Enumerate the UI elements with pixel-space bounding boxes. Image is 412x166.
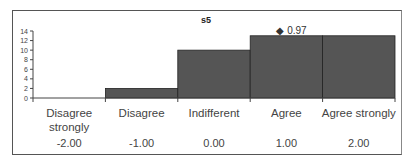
bar (250, 36, 322, 98)
scale-value-label: -1.00 (112, 137, 172, 149)
scale-value-label: 2.00 (329, 137, 389, 149)
scale-value-label: 1.00 (256, 137, 316, 149)
y-tick-label: 4 (24, 75, 28, 82)
category-label: Agree strongly (319, 106, 399, 120)
y-tick-label: 12 (20, 37, 28, 44)
y-tick-label: 14 (20, 28, 28, 35)
bar (105, 88, 177, 98)
y-tick-label: 2 (24, 85, 28, 92)
scale-value-label: -2.00 (39, 137, 99, 149)
y-tick-label: 6 (24, 66, 28, 73)
y-tick-label: 8 (24, 56, 28, 63)
bar (323, 36, 395, 98)
category-label: Disagree (102, 106, 182, 120)
category-label: Disagreestrongly (29, 106, 109, 134)
bar (178, 50, 250, 98)
mean-annotation: ◆ 0.97 (276, 25, 307, 36)
category-label: Agree (246, 106, 326, 120)
y-tick-label: 10 (20, 47, 28, 54)
scale-value-label: 0.00 (184, 137, 244, 149)
y-tick-label: 0 (24, 95, 28, 102)
category-label: Indifferent (174, 106, 254, 120)
